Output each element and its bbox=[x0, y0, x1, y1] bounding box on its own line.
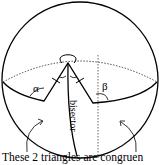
sphere-diagram: α β bisector bbox=[0, 0, 159, 165]
caption: These 2 triangles are congruen bbox=[2, 151, 143, 163]
equator-front bbox=[3, 63, 157, 103]
alpha-label: α bbox=[33, 82, 39, 94]
bisector-label: bisector bbox=[68, 100, 79, 132]
arrowhead-right bbox=[120, 121, 125, 126]
equator-back bbox=[3, 61, 157, 82]
beta-label: β bbox=[102, 80, 108, 92]
arrow-right bbox=[121, 122, 136, 152]
